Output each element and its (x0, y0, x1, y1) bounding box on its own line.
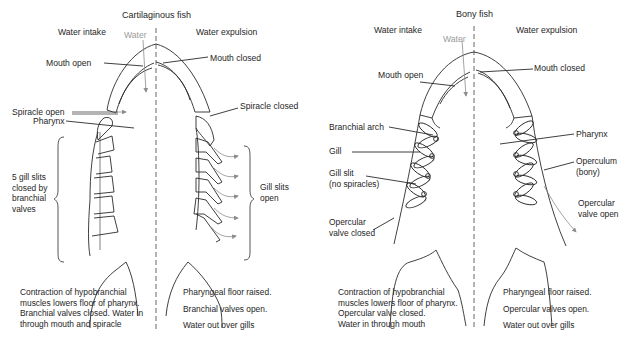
caption-intake-cartilaginous: Contraction of hypobranchial muscles low… (20, 287, 143, 329)
label-gill-slits-closed: 5 gill slits closed by branchial valves (12, 172, 47, 214)
upper-jaw-inner-left (116, 63, 154, 113)
water-label: Water (443, 34, 466, 45)
gills-left (404, 120, 439, 210)
heading-water-intake: Water intake (374, 25, 422, 36)
open-gill-slits (194, 116, 222, 242)
panel-title-cartilaginous: Cartilaginous fish (122, 10, 191, 21)
lower-jaw-left (440, 77, 468, 104)
label-mouth-closed: Mouth closed (210, 53, 261, 64)
label-gill-slits-open: Gill slits open (260, 182, 289, 203)
label-branchial-arch: Branchial arch (329, 122, 384, 133)
heading-water-expulsion: Water expulsion (196, 27, 257, 38)
label-gill: Gill (329, 146, 341, 157)
caption-expulsion-bony: Pharyngeal floor raised. Opercular valve… (503, 287, 591, 337)
label-operculum: Operculum (bony) (576, 156, 617, 177)
label-pharynx: Pharynx (33, 116, 65, 127)
upper-jaw-outer (107, 44, 210, 112)
label-spiracle-closed: Spiracle closed (240, 101, 298, 112)
brace-open-slits (244, 146, 254, 260)
upper-jaw-inner-right (476, 70, 514, 118)
caption-intake-bony: Contraction of hypobranchial muscles low… (338, 287, 458, 329)
caption-expulsion-cartilaginous: Pharyngeal floor raised. Branchial valve… (183, 287, 271, 337)
label-gill-slit: Gill slit (no spiracles) (329, 168, 379, 189)
closed-gill-slits (89, 117, 119, 256)
heading-water-expulsion: Water expulsion (516, 25, 577, 36)
panel-title-bony: Bony fish (456, 9, 493, 20)
label-opercular-valve-open: Opercular valve open (578, 198, 619, 219)
cartilaginous-water-flow-arrows (112, 40, 238, 237)
label-opercular-valve-closed: Opercular valve closed (329, 217, 375, 238)
lower-jaw-left (119, 68, 152, 104)
cartilaginous-fish-drawing (54, 28, 254, 330)
brace-closed-slits (54, 137, 64, 262)
label-mouth-open: Mouth open (46, 58, 91, 69)
label-pharynx: Pharynx (576, 129, 608, 140)
heading-water-intake: Water intake (58, 27, 106, 38)
label-mouth-closed: Mouth closed (534, 63, 585, 74)
water-label: Water (124, 30, 147, 41)
lower-jaw-right (158, 65, 190, 100)
lower-jaw-right (478, 73, 510, 108)
label-mouth-open: Mouth open (378, 70, 423, 81)
